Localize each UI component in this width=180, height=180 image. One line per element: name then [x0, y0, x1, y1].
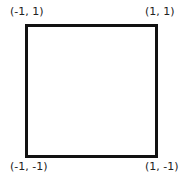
- vertex-label-top-right: (1, 1): [145, 6, 175, 18]
- vertex-label-bottom-left: (-1, -1): [10, 161, 48, 173]
- square-shape: [25, 24, 158, 158]
- vertex-label-bottom-right: (1, -1): [145, 161, 179, 173]
- vertex-label-top-left: (-1, 1): [10, 6, 44, 18]
